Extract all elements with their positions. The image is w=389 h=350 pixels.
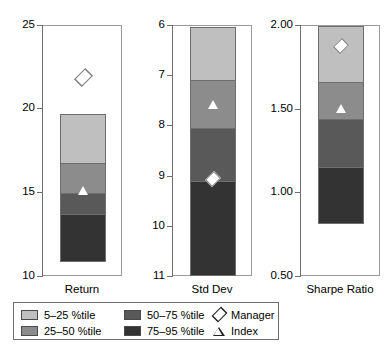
tick-sharpe-2 bbox=[295, 192, 300, 193]
legend: 5–25 %tile 50–75 %tile Manager 25–50 %ti… bbox=[13, 302, 279, 340]
tick-label-return-2: 15 bbox=[2, 186, 35, 198]
legend-swatch-50-75-icon bbox=[124, 310, 141, 320]
segment-return-p5-25 bbox=[61, 115, 105, 163]
legend-label-50-75: 50–75 %tile bbox=[147, 309, 205, 321]
legend-label-25-50: 25–50 %tile bbox=[44, 325, 102, 337]
panel-std-dev: 6 7 8 9 10 11 Std Dev bbox=[172, 0, 252, 300]
legend-label-index: Index bbox=[231, 325, 258, 337]
tick-return-2 bbox=[37, 192, 42, 193]
tick-label-sharpe-1: 1.50 bbox=[253, 103, 293, 115]
tick-stddev-5 bbox=[167, 276, 172, 277]
box-sharpe-ratio bbox=[318, 26, 364, 224]
diamond-icon bbox=[212, 308, 226, 322]
legend-label-manager: Manager bbox=[231, 309, 274, 321]
tick-sharpe-3 bbox=[295, 276, 300, 277]
tick-return-0 bbox=[37, 25, 42, 26]
triangle-icon bbox=[212, 324, 226, 338]
tick-label-sharpe-0: 2.00 bbox=[253, 19, 293, 31]
tick-label-sharpe-3: 0.50 bbox=[253, 270, 293, 282]
axis-title-sharpe-ratio: Sharpe Ratio bbox=[300, 283, 380, 295]
legend-swatch-25-50-icon bbox=[21, 326, 38, 336]
panel-std-dev-axis bbox=[172, 25, 173, 277]
marker-index-sharpe-ratio bbox=[336, 104, 346, 113]
tick-stddev-4 bbox=[167, 226, 172, 227]
tick-sharpe-1 bbox=[295, 109, 300, 110]
segment-sharpe-p25-50 bbox=[319, 82, 363, 119]
legend-item-75-95: 75–95 %tile bbox=[124, 322, 205, 339]
percentile-box-chart: 25 20 15 10 Return 6 7 8 9 10 bbox=[0, 0, 389, 350]
tick-label-stddev-0: 6 bbox=[132, 19, 165, 31]
segment-sharpe-p75-95 bbox=[319, 167, 363, 223]
tick-stddev-1 bbox=[167, 75, 172, 76]
legend-label-75-95: 75–95 %tile bbox=[147, 325, 205, 337]
tick-label-sharpe-2: 1.00 bbox=[253, 186, 293, 198]
tick-stddev-2 bbox=[167, 125, 172, 126]
marker-index-return bbox=[78, 186, 88, 195]
segment-stddev-p75-95 bbox=[191, 181, 235, 275]
legend-swatch-75-95-icon bbox=[124, 326, 141, 336]
legend-row-bottom: 25–50 %tile 75–95 %tile Index bbox=[14, 322, 278, 339]
legend-item-5-25: 5–25 %tile bbox=[21, 306, 95, 323]
axis-title-std-dev: Std Dev bbox=[172, 283, 252, 295]
tick-return-3 bbox=[37, 276, 42, 277]
panel-return-axis bbox=[42, 25, 43, 277]
tick-stddev-0 bbox=[167, 25, 172, 26]
tick-label-return-0: 25 bbox=[2, 19, 35, 31]
legend-item-manager: Manager bbox=[212, 306, 274, 323]
segment-return-p50-75 bbox=[61, 193, 105, 214]
legend-item-50-75: 50–75 %tile bbox=[124, 306, 205, 323]
legend-swatch-5-25-icon bbox=[21, 310, 38, 320]
segment-sharpe-p50-75 bbox=[319, 119, 363, 167]
legend-row-top: 5–25 %tile 50–75 %tile Manager bbox=[14, 306, 278, 323]
box-std-dev bbox=[190, 27, 236, 276]
tick-sharpe-0 bbox=[295, 25, 300, 26]
segment-stddev-p5-25 bbox=[191, 28, 235, 80]
tick-label-stddev-1: 7 bbox=[132, 69, 165, 81]
axis-title-return: Return bbox=[42, 283, 122, 295]
panel-sharpe-ratio: 2.00 1.50 1.00 0.50 Sharpe Ratio bbox=[300, 0, 380, 300]
marker-index-std-dev bbox=[208, 100, 218, 109]
panel-sharpe-ratio-axis bbox=[300, 25, 301, 277]
legend-item-25-50: 25–50 %tile bbox=[21, 322, 102, 339]
legend-item-index: Index bbox=[212, 322, 258, 339]
legend-label-5-25: 5–25 %tile bbox=[44, 309, 95, 321]
panel-return: 25 20 15 10 Return bbox=[42, 0, 122, 300]
segment-return-p75-95 bbox=[61, 214, 105, 261]
tick-return-1 bbox=[37, 108, 42, 109]
tick-label-stddev-5: 11 bbox=[132, 270, 165, 282]
tick-label-return-1: 20 bbox=[2, 102, 35, 114]
tick-label-return-3: 10 bbox=[2, 270, 35, 282]
tick-stddev-3 bbox=[167, 176, 172, 177]
tick-label-stddev-3: 9 bbox=[132, 170, 165, 182]
segment-sharpe-p5-25 bbox=[319, 27, 363, 82]
tick-label-stddev-4: 10 bbox=[132, 220, 165, 232]
tick-label-stddev-2: 8 bbox=[132, 119, 165, 131]
